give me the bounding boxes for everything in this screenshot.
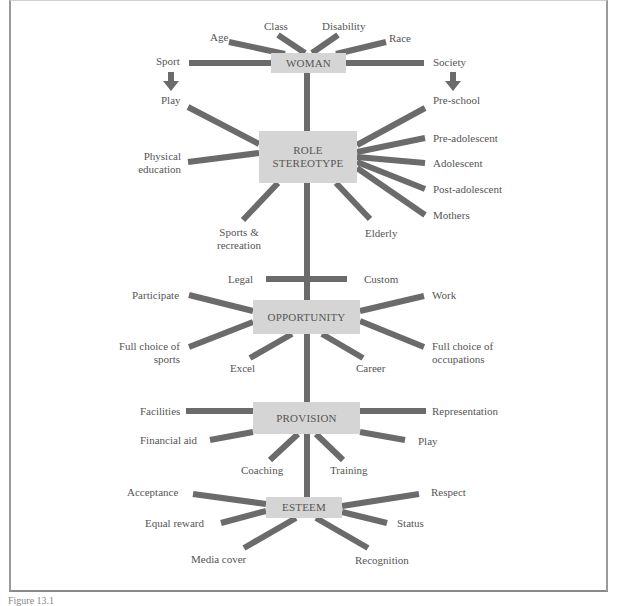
- label-physical-line1: Physical: [135, 150, 181, 163]
- label-training: Training: [330, 464, 368, 477]
- label-participate: Participate: [132, 289, 179, 302]
- label-full-choice-sports: Full choice of sports: [110, 340, 180, 366]
- label-physical-education: Physical education: [135, 150, 181, 176]
- label-career: Career: [356, 362, 385, 375]
- label-mothers: Mothers: [433, 209, 470, 222]
- label-full-occ-line2: occupations: [432, 353, 493, 366]
- label-elderly: Elderly: [365, 227, 397, 240]
- label-pre-adolescent: Pre-adolescent: [433, 132, 498, 145]
- label-acceptance: Acceptance: [127, 486, 178, 499]
- label-class: Class: [264, 20, 288, 33]
- label-equal-reward: Equal reward: [145, 517, 204, 530]
- label-pre-school: Pre-school: [433, 94, 480, 107]
- label-excel: Excel: [230, 362, 255, 375]
- label-legal: Legal: [228, 273, 253, 286]
- label-adolescent: Adolescent: [433, 157, 482, 170]
- node-woman: WOMAN: [271, 53, 346, 73]
- node-role-line1: ROLE: [293, 144, 323, 157]
- node-opportunity: OPPORTUNITY: [253, 300, 360, 334]
- label-financial-aid: Financial aid: [140, 434, 197, 447]
- label-physical-line2: education: [135, 163, 181, 176]
- label-age: Age: [210, 31, 228, 44]
- label-respect: Respect: [431, 486, 466, 499]
- label-status: Status: [397, 517, 424, 530]
- label-post-adolescent: Post-adolescent: [433, 183, 502, 196]
- label-coaching: Coaching: [241, 464, 283, 477]
- label-full-choice-occupations: Full choice of occupations: [432, 340, 493, 366]
- node-esteem: ESTEEM: [266, 497, 342, 518]
- node-provision: PROVISION: [253, 402, 360, 434]
- node-role-stereotype: ROLE STEREOTYPE: [259, 131, 357, 183]
- label-representation: Representation: [432, 405, 498, 418]
- label-race: Race: [389, 32, 411, 45]
- label-custom: Custom: [364, 273, 398, 286]
- label-play-provision: Play: [418, 435, 438, 448]
- label-work: Work: [432, 289, 456, 302]
- label-facilities: Facilities: [140, 405, 180, 418]
- label-sport: Sport: [156, 55, 180, 68]
- arrow-icons: [163, 72, 461, 91]
- label-sports-line1: Sports &: [209, 226, 269, 239]
- label-sports-line2: recreation: [209, 239, 269, 252]
- label-full-occ-line1: Full choice of: [432, 340, 493, 353]
- label-society: Society: [433, 56, 466, 69]
- label-play: Play: [161, 94, 181, 107]
- figure-caption: Figure 13.1: [8, 595, 54, 606]
- label-full-sports-line2: sports: [110, 353, 180, 366]
- node-role-line2: STEREOTYPE: [272, 157, 343, 170]
- label-sports-recreation: Sports & recreation: [209, 226, 269, 252]
- label-full-sports-line1: Full choice of: [110, 340, 180, 353]
- label-disability: Disability: [322, 20, 365, 33]
- label-recognition: Recognition: [355, 554, 409, 567]
- label-media-cover: Media cover: [191, 553, 246, 566]
